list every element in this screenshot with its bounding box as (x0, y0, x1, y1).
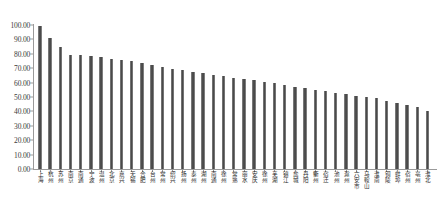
x-axis-category-label-text: 马鞍山 (364, 171, 370, 189)
bar[interactable] (201, 73, 204, 169)
bar-chart: 100.0090.0080.0070.0060.0050.0040.0030.0… (0, 0, 446, 203)
bar[interactable] (99, 57, 102, 169)
x-axis-category-label: 马鞍山 (362, 171, 372, 201)
x-axis-category-label-text: 无锡 (129, 171, 135, 183)
x-axis-category-label: 常熟 (229, 171, 239, 201)
x-axis-category-label-text: 扬州 (180, 171, 186, 183)
bar[interactable] (303, 88, 306, 169)
x-axis-category-label-text: 上海 (38, 171, 44, 183)
bar[interactable] (365, 97, 368, 169)
x-axis-category-label-text: 滁州 (344, 171, 350, 183)
x-axis-category-label-text: 南通 (78, 171, 84, 183)
bar[interactable] (171, 69, 174, 169)
x-axis-category-label: 亳州 (413, 171, 423, 201)
x-axis-category-label: 南通 (209, 171, 219, 201)
x-axis-category-label-text: 镇江 (282, 171, 288, 183)
x-axis-category-label: 嘉兴 (117, 171, 127, 201)
x-axis-category-label: 淮北 (423, 171, 433, 201)
bar[interactable] (59, 47, 62, 169)
x-axis-category-label-text: 淮南 (374, 171, 380, 183)
bar[interactable] (222, 76, 225, 169)
x-axis-category-label: 宿迁 (321, 171, 331, 201)
x-axis-category-label-text: 蚌埠 (395, 171, 401, 183)
bar[interactable] (324, 91, 327, 169)
bar[interactable] (252, 80, 255, 169)
bar[interactable] (212, 75, 215, 169)
x-axis-category-label-text: 台州 (150, 171, 156, 183)
bar[interactable] (385, 101, 388, 169)
x-axis-category-label: 常州 (158, 171, 168, 201)
x-axis-category-label: 铜陵 (382, 171, 392, 201)
bar[interactable] (181, 70, 184, 169)
bar[interactable] (426, 111, 429, 169)
bar[interactable] (140, 63, 143, 169)
x-axis-category-label-text: 南通 (211, 171, 217, 183)
x-axis-category-label-text: 盐城 (293, 171, 299, 183)
bar[interactable] (416, 107, 419, 169)
x-axis-category-label: 杭州 (46, 171, 56, 201)
bar[interactable] (334, 93, 337, 169)
bar[interactable] (38, 26, 41, 169)
x-axis-category-label: 镇江 (280, 171, 290, 201)
bar-series: 上海杭州苏州南京南通宁波温州北京嘉兴无锡合肥台州常州绍兴扬州泰州湖州南通徐州常熟… (33, 0, 437, 203)
x-axis-category-label-text: 衢州 (313, 171, 319, 183)
x-axis-category-label-text: 徐州 (221, 171, 227, 183)
x-axis-category-label: 合肥 (138, 171, 148, 201)
x-axis-category-label-text: 亳州 (415, 171, 421, 183)
bar[interactable] (110, 59, 113, 169)
x-axis-category-label: 丹阳 (301, 171, 311, 201)
x-axis-category-label-text: 徐州 (262, 171, 268, 183)
bar[interactable] (161, 67, 164, 169)
x-axis-category-label-text: 温州 (99, 171, 105, 183)
x-axis-category-label: 泰州 (189, 171, 199, 201)
x-axis-category-label-text: 安庆 (252, 171, 258, 183)
bar[interactable] (79, 55, 82, 169)
bar[interactable] (120, 60, 123, 169)
bar[interactable] (405, 105, 408, 169)
x-axis-category-label-text: 丽水 (242, 171, 248, 183)
bar[interactable] (293, 87, 296, 169)
bar[interactable] (89, 56, 92, 169)
bar[interactable] (48, 38, 51, 169)
x-axis-category-label: 北京 (107, 171, 117, 201)
x-axis-category-label-text: 绍兴 (170, 171, 176, 183)
x-axis-category-label: 南通 (76, 171, 86, 201)
x-axis-category-label-text: 铜陵 (384, 171, 390, 183)
x-axis-category-label: 苏州 (56, 171, 66, 201)
bar[interactable] (69, 55, 72, 169)
x-axis-category-label: 上海 (36, 171, 46, 201)
x-axis-category-label: 绍兴 (168, 171, 178, 201)
x-axis-category-label-text: 杭州 (48, 171, 54, 183)
x-axis-category-label-text: 六安市 (354, 171, 360, 189)
x-axis-category-label: 台州 (148, 171, 158, 201)
bar[interactable] (375, 98, 378, 169)
x-axis-category-label-text: 宁波 (89, 171, 95, 183)
x-axis-category-label-text: 苏州 (58, 171, 64, 183)
bar[interactable] (232, 78, 235, 169)
x-axis-category-label-text: 嘉兴 (119, 171, 125, 183)
bar[interactable] (150, 65, 153, 169)
bar[interactable] (314, 90, 317, 169)
x-axis-category-label-text: 常州 (160, 171, 166, 183)
x-axis-category-label: 湖州 (199, 171, 209, 201)
bar[interactable] (273, 83, 276, 169)
x-axis-category-label: 温州 (97, 171, 107, 201)
bar[interactable] (283, 85, 286, 169)
bar[interactable] (354, 96, 357, 169)
x-axis-category-label: 徐州 (219, 171, 229, 201)
bar[interactable] (130, 61, 133, 169)
bar[interactable] (263, 82, 266, 169)
x-axis-category-label: 宁波 (87, 171, 97, 201)
x-axis-category-label: 宿州 (403, 171, 413, 201)
x-axis-category-label-text: 常熟 (231, 171, 237, 183)
x-axis-category-label-text: 南京 (68, 171, 74, 183)
bar[interactable] (242, 79, 245, 169)
x-axis-category-label: 蚌埠 (393, 171, 403, 201)
bar[interactable] (191, 72, 194, 169)
bar[interactable] (395, 103, 398, 169)
x-axis-category-label: 芜湖 (270, 171, 280, 201)
x-axis-category-label-text: 宿迁 (323, 171, 329, 183)
x-axis-category-label: 扬州 (178, 171, 188, 201)
x-axis-category-label-text: 淮北 (425, 171, 431, 183)
bar[interactable] (344, 94, 347, 169)
